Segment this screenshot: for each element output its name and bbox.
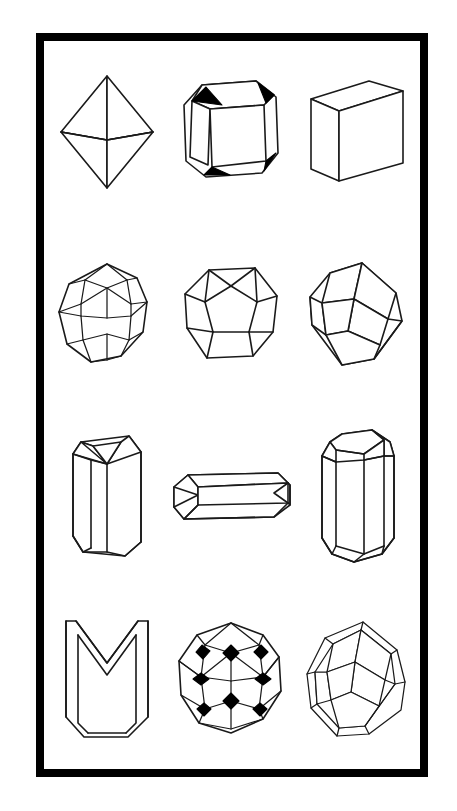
figure-cell-prismatic-crystal: Prismatic Crystal xyxy=(295,405,420,587)
figure-cell-hexagonal-prism: Hexagonal Prism with Pyramid xyxy=(44,405,169,587)
cube-icon xyxy=(305,77,409,187)
figure-cell-elongated-prism: Elongated Prism xyxy=(169,405,294,587)
figure-cell-rhombic-dodecahedron: Rhombic Dodecahedron xyxy=(295,223,420,405)
figure-cell-contact-twin: Contact Twin xyxy=(44,587,169,769)
hexagonal-prism-icon xyxy=(63,430,151,562)
figure-cell-hexoctahedron: Hexoctahedron xyxy=(169,587,294,769)
plate-interior: Octahedron Truncated Cube xyxy=(44,41,420,769)
figure-cell-cube: Cube xyxy=(295,41,420,223)
figure-cell-pyritohedron: Pentagonal Dodecahedron xyxy=(169,223,294,405)
rhombic-dodecahedron-icon xyxy=(304,259,410,369)
elongated-prism-icon xyxy=(170,465,294,527)
hexoctahedron-icon xyxy=(175,619,289,737)
figure-grid: Octahedron Truncated Cube xyxy=(44,41,420,769)
figure-cell-truncated-cube: Truncated Cube xyxy=(169,41,294,223)
contact-twin-icon xyxy=(58,615,156,741)
figure-cell-trapezohedron: Trapezohedron xyxy=(44,223,169,405)
truncated-cube-icon xyxy=(178,75,286,189)
trapezohedron-icon xyxy=(55,260,159,368)
bevelled-rhombic-dodecahedron-icon xyxy=(301,616,413,740)
octahedron-icon xyxy=(55,70,159,194)
crystal-forms-plate: Octahedron Truncated Cube xyxy=(36,33,428,777)
figure-cell-bevelled-rhombic-dodecahedron: Bevelled Rhombic Dodecahedron xyxy=(295,587,420,769)
pentagonal-dodecahedron-icon xyxy=(179,262,285,366)
prismatic-crystal-icon xyxy=(310,426,404,566)
figure-cell-octahedron: Octahedron xyxy=(44,41,169,223)
